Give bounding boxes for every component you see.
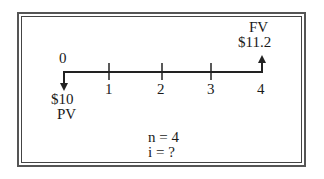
pv-amount: $10 (51, 92, 74, 107)
down-arrow-icon (60, 83, 68, 91)
period-label-4: 4 (257, 82, 265, 97)
period-label-0: 0 (59, 51, 67, 66)
up-arrow-icon (258, 55, 266, 63)
given-i: i = ? (148, 145, 175, 160)
period-label-3: 3 (207, 82, 215, 97)
period-label-1: 1 (105, 82, 113, 97)
pv-label: PV (57, 107, 76, 122)
fv-amount: $11.2 (238, 35, 271, 50)
given-n: n = 4 (148, 130, 179, 145)
fv-label: FV (249, 20, 268, 35)
period-label-2: 2 (157, 82, 165, 97)
